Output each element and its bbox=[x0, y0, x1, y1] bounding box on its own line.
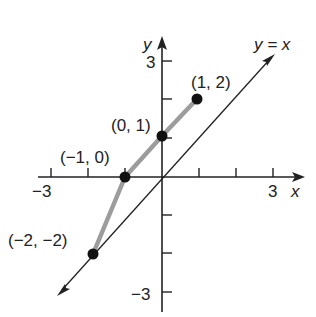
x-axis: −3 3 x bbox=[32, 168, 305, 201]
y-axis-label: y bbox=[142, 35, 153, 54]
point-neg2-neg2 bbox=[88, 249, 99, 260]
point-label-neg2-neg2: (−2, −2) bbox=[8, 231, 68, 250]
x-axis-label: x bbox=[290, 182, 300, 201]
x-tick-label-neg3: −3 bbox=[32, 182, 51, 201]
line-arrow-lower-icon bbox=[57, 284, 70, 296]
point-label-0-1: (0, 1) bbox=[111, 116, 151, 135]
x-tick-label-3: 3 bbox=[268, 182, 277, 201]
point-label-1-2: (1, 2) bbox=[191, 73, 231, 92]
point-0-1 bbox=[157, 131, 168, 142]
line-arrow-upper-icon bbox=[262, 54, 275, 66]
y-tick-label-3: 3 bbox=[146, 53, 155, 72]
y-tick-label-neg3: −3 bbox=[131, 285, 150, 304]
line-equation-label: y = x bbox=[253, 35, 291, 54]
piecewise-graph: (−2, −2) (−1, 0) (0, 1) (1, 2) bbox=[8, 73, 231, 260]
y-axis: 3 −3 y bbox=[131, 35, 172, 312]
point-1-2 bbox=[192, 94, 203, 105]
point-label-neg1-0: (−1, 0) bbox=[60, 148, 110, 167]
point-neg1-0 bbox=[120, 172, 131, 183]
coordinate-plane-chart: −3 3 x 3 −3 y y = x (−2, −2) (−1, 0 bbox=[0, 0, 316, 317]
